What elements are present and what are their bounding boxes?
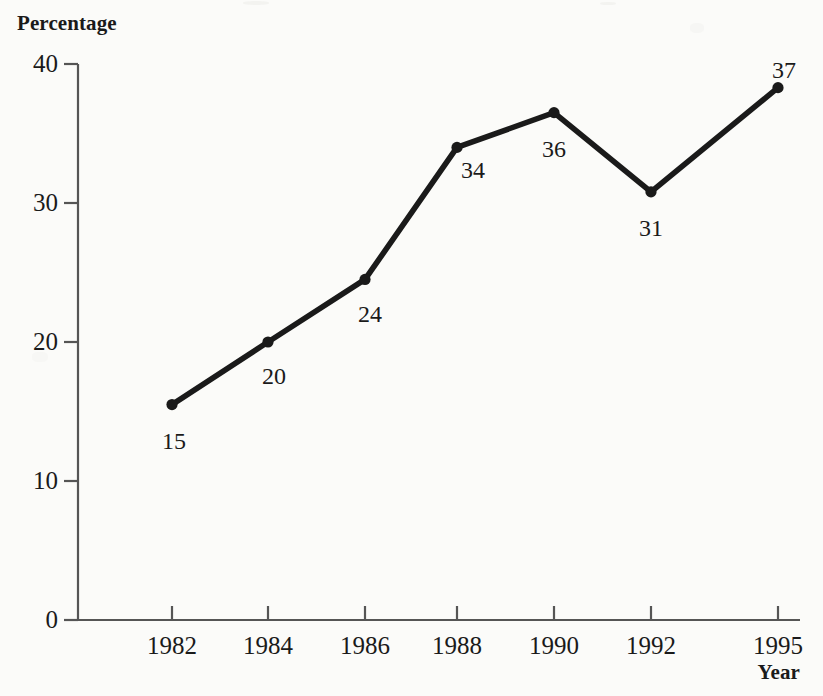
data-point-marker [451,142,462,153]
data-value-label: 24 [340,302,400,326]
x-tick-label: 1984 [223,633,313,658]
data-value-label: 20 [244,364,304,388]
data-point-markers [166,82,783,410]
x-tick-label: 1990 [509,633,599,658]
data-value-label: 37 [754,58,814,82]
data-value-label: 15 [144,429,204,453]
data-point-marker [262,336,273,347]
data-point-marker [359,274,370,285]
data-line [172,88,778,405]
chart-page: Percentage Year 010203040 19821984198619… [0,0,823,696]
x-tick-label: 1982 [127,633,217,658]
x-axis-ticks [172,606,778,620]
x-tick-label: 1992 [606,633,696,658]
y-tick-label: 30 [0,190,58,215]
data-point-marker [548,107,559,118]
y-axis-ticks [64,64,78,620]
y-tick-label: 40 [0,51,58,76]
y-tick-label: 0 [0,607,58,632]
y-tick-label: 10 [0,468,58,493]
x-tick-label: 1988 [412,633,502,658]
x-tick-label: 1986 [320,633,410,658]
axis-lines [78,64,800,620]
data-value-label: 34 [443,158,503,182]
x-tick-label: 1995 [733,633,823,658]
data-point-marker [772,82,783,93]
y-tick-label: 20 [0,329,58,354]
data-point-marker [645,186,656,197]
data-value-label: 31 [621,216,681,240]
line-chart-plot [0,0,823,696]
data-value-label: 36 [524,137,584,161]
data-point-marker [166,399,177,410]
